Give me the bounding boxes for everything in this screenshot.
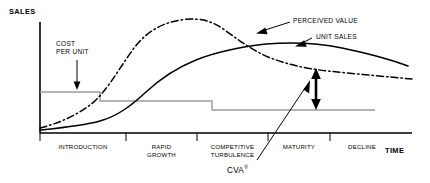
stage-label-competitive-turbulence: COMPETITIVE TURBULENCE <box>197 143 268 158</box>
perceived-value-annotation: PERCEIVED VALUE <box>293 17 358 25</box>
cost-per-unit-step-line <box>40 92 375 110</box>
unit-sales-annotation: UNIT SALES <box>316 33 357 41</box>
stage-label-rapid-growth: RAPID GROWTH <box>126 143 197 158</box>
cost-per-unit-line1: COST <box>56 40 75 47</box>
cva-double-arrow <box>311 68 321 110</box>
cva-label: CVA <box>227 166 244 175</box>
unit-sales-curve <box>40 43 408 130</box>
stage-label-maturity: MATURITY <box>268 143 330 151</box>
cost-per-unit-annotation: COST PER UNIT <box>56 40 89 57</box>
product-life-cycle-chart: SALES TIME COST PER UNIT PERCEIVED VALUE… <box>0 0 430 183</box>
stage-label-decline: DECLINE <box>330 143 394 151</box>
registered-trademark-icon: ® <box>244 164 248 170</box>
cost-per-unit-line2: PER UNIT <box>56 48 89 55</box>
stage-label-introduction: INTRODUCTION <box>40 143 126 151</box>
perceived-value-leader <box>256 22 290 34</box>
cva-annotation: CVA® <box>227 163 248 175</box>
y-axis-label: SALES <box>9 8 36 16</box>
cost-per-unit-leader <box>74 60 81 90</box>
